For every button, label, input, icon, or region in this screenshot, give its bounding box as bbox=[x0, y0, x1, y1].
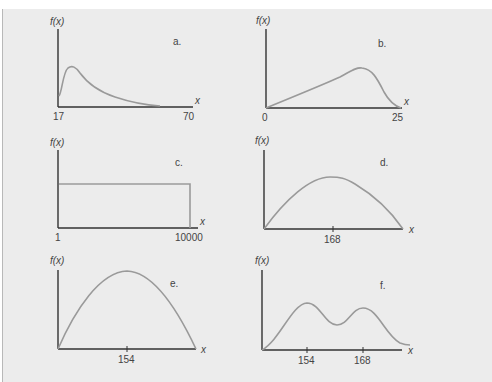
y-axis-label: f(x) bbox=[255, 135, 269, 146]
chart-a: f(x) x a. 17 70 bbox=[50, 16, 201, 122]
x-axis-label: x bbox=[194, 95, 201, 106]
tick-label: 154 bbox=[118, 354, 135, 365]
x-axis-label: x bbox=[403, 96, 410, 107]
chart-label: f. bbox=[380, 280, 386, 291]
tick-label: 168 bbox=[324, 234, 341, 245]
chart-label: e. bbox=[170, 278, 178, 289]
curve bbox=[262, 303, 410, 350]
y-axis-label: f(x) bbox=[50, 255, 64, 266]
chart-d: f(x) x d. 168 bbox=[255, 135, 415, 245]
y-axis-label: f(x) bbox=[256, 15, 270, 26]
tick-label: 25 bbox=[392, 112, 404, 123]
y-axis-label: f(x) bbox=[255, 255, 269, 266]
tick-label: 17 bbox=[53, 111, 65, 122]
chart-label: c. bbox=[175, 157, 183, 168]
chart-c: f(x) x c. 1 10000 bbox=[50, 137, 206, 243]
curve bbox=[59, 184, 190, 228]
chart-b: f(x) x b. 0 25 bbox=[256, 15, 410, 123]
chart-f: f(x) x f. 154 168 bbox=[255, 255, 414, 366]
curve bbox=[59, 67, 160, 106]
x-axis-label: x bbox=[199, 216, 206, 227]
y-axis-label: f(x) bbox=[50, 16, 64, 27]
y-axis-label: f(x) bbox=[50, 137, 64, 148]
chart-label: a. bbox=[173, 36, 181, 47]
tick-label: 70 bbox=[183, 111, 195, 122]
tick-label: 0 bbox=[262, 112, 268, 123]
x-axis-label: x bbox=[407, 345, 414, 356]
chart-e: f(x) x e. 154 bbox=[50, 255, 207, 365]
curve bbox=[264, 177, 403, 229]
tick-label: 168 bbox=[354, 355, 371, 366]
tick-label: 154 bbox=[298, 355, 315, 366]
curve bbox=[266, 68, 401, 108]
chart-label: b. bbox=[378, 38, 386, 49]
chart-label: d. bbox=[380, 157, 388, 168]
tick-label: 1 bbox=[55, 232, 61, 243]
tick-label: 10000 bbox=[175, 232, 203, 243]
x-axis-label: x bbox=[408, 224, 415, 235]
x-axis-label: x bbox=[200, 344, 207, 355]
